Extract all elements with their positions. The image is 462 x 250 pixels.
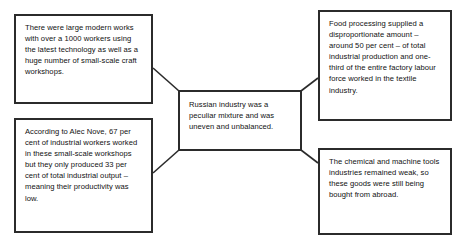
- connector-alec-nove-to-center: [153, 150, 179, 173]
- connector-modern-works-to-center: [153, 68, 179, 91]
- node-modern-works-text: There were large modern works with over …: [25, 22, 143, 77]
- node-center-claim: Russian industry was a peculiar mixture …: [178, 90, 302, 151]
- node-center-claim-text: Russian industry was a peculiar mixture …: [189, 99, 292, 132]
- node-food-processing: Food processing supplied a disproportion…: [318, 10, 452, 121]
- node-chemical-industries: The chemical and machine tools industrie…: [318, 148, 452, 235]
- connector-center-to-chemical: [301, 150, 318, 163]
- node-food-processing-text: Food processing supplied a disproportion…: [329, 18, 442, 96]
- connector-center-to-food-processing: [301, 78, 318, 91]
- node-modern-works: There were large modern works with over …: [14, 14, 153, 104]
- node-alec-nove: According to Alec Nove, 67 per cent of i…: [14, 118, 153, 233]
- node-alec-nove-text: According to Alec Nove, 67 per cent of i…: [25, 126, 143, 204]
- node-chemical-industries-text: The chemical and machine tools industrie…: [329, 156, 442, 200]
- diagram-canvas: There were large modern works with over …: [0, 0, 462, 250]
